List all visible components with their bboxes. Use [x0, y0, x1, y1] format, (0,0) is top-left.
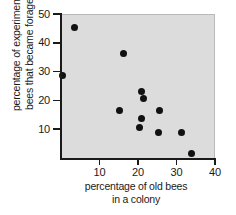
- data-point: [155, 129, 162, 136]
- y-axis-tick: [53, 42, 61, 44]
- data-point: [188, 150, 195, 157]
- data-point: [71, 24, 78, 31]
- x-axis-tick-label: 10: [85, 167, 115, 178]
- x-axis-tick: [176, 158, 178, 165]
- y-axis-title-line-2: bees that became foragers: [23, 0, 36, 124]
- data-point: [138, 88, 145, 95]
- data-point: [156, 107, 163, 114]
- y-axis-line: [60, 13, 62, 159]
- data-points-layer: [61, 15, 214, 158]
- x-axis-title: percentage of old bees in a colony: [46, 180, 226, 206]
- y-axis-title: percentage of experimental bees that bec…: [10, 0, 36, 124]
- x-axis-tick: [99, 158, 101, 165]
- plot-area: [61, 14, 215, 158]
- y-axis-tick-label: 10: [24, 124, 50, 135]
- data-point: [140, 95, 147, 102]
- y-axis-tick: [53, 13, 61, 15]
- x-axis-tick: [214, 158, 216, 165]
- y-axis-tick: [53, 128, 61, 130]
- data-point: [138, 115, 145, 122]
- x-axis-tick-label: 40: [200, 167, 230, 178]
- data-point: [120, 50, 127, 57]
- x-axis-tick-label: 30: [162, 167, 192, 178]
- y-axis-tick: [53, 71, 61, 73]
- x-axis-title-line-1: percentage of old bees: [46, 180, 226, 193]
- data-point: [116, 107, 123, 114]
- x-axis-tick: [137, 158, 139, 165]
- x-axis-title-line-2: in a colony: [46, 193, 226, 206]
- y-axis-tick: [53, 100, 61, 102]
- y-axis-title-line-1: percentage of experimental: [10, 0, 23, 124]
- scatter-plot-figure: 1020304050 10203040 percentage of experi…: [0, 0, 236, 215]
- x-axis-tick-label: 20: [123, 167, 153, 178]
- data-point: [136, 124, 143, 131]
- data-point: [178, 129, 185, 136]
